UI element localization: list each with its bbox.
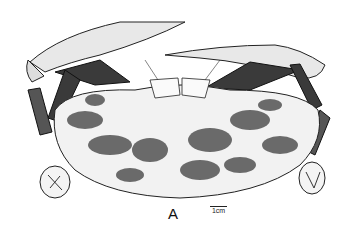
crab-illustration — [0, 0, 363, 245]
scale-bar: 1cm — [210, 206, 227, 215]
figure-canvas: A 1cm — [0, 0, 363, 245]
panel-label: A — [168, 205, 178, 222]
